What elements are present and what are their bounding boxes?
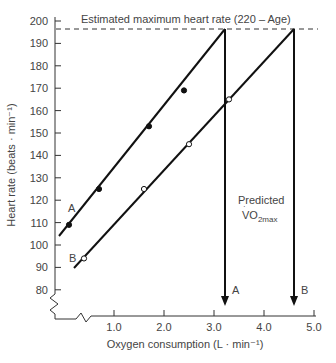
- data-point-a: [96, 186, 101, 191]
- y-tick-label: 80: [36, 284, 48, 296]
- y-axis: [50, 17, 58, 319]
- x-tick-label: 1.0: [106, 321, 121, 333]
- y-tick-label: 190: [30, 37, 48, 49]
- data-point-b: [226, 97, 231, 102]
- y-tick-label: 100: [30, 239, 48, 251]
- y-axis-label: Heart rate (beats · min⁻¹): [5, 103, 17, 226]
- x-tick-label: 5.0: [306, 321, 321, 333]
- x-tick-label: 4.0: [256, 321, 271, 333]
- y-tick-label: 170: [30, 82, 48, 94]
- x-tick-label: 2.0: [156, 321, 171, 333]
- y-tick-label: 120: [30, 194, 48, 206]
- max-heart-rate-label: Estimated maximum heart rate (220 – Age): [81, 13, 291, 25]
- data-point-b: [81, 256, 86, 261]
- heart-rate-vo2-chart: 8090100110120130140150160170180190200 1.…: [0, 0, 336, 363]
- arrowhead-b-icon: [290, 296, 298, 306]
- y-tick-label: 90: [36, 261, 48, 273]
- y-tick-label: 130: [30, 172, 48, 184]
- arrow-label-b: B: [301, 284, 308, 296]
- arrow-label-a: A: [232, 284, 240, 296]
- data-point-a: [181, 88, 186, 93]
- y-tick-label: 150: [30, 127, 48, 139]
- x-axis: [55, 313, 316, 322]
- data-point-a: [66, 222, 71, 227]
- line-a: [59, 29, 225, 236]
- arrowhead-a-icon: [221, 296, 229, 306]
- series-label-a: A: [68, 202, 76, 214]
- x-ticks: 1.02.03.04.05.0: [106, 310, 321, 333]
- y-tick-label: 160: [30, 105, 48, 117]
- data-point-a: [146, 124, 151, 129]
- series-label-b: B: [69, 252, 76, 264]
- line-b: [74, 29, 294, 268]
- vo2-dot-icon: ·: [243, 202, 246, 211]
- y-tick-label: 180: [30, 60, 48, 72]
- x-tick-label: 3.0: [206, 321, 221, 333]
- y-ticks: 8090100110120130140150160170180190200: [30, 15, 61, 296]
- chart-svg: 8090100110120130140150160170180190200 1.…: [0, 0, 336, 363]
- x-axis-label: Oxygen consumption (L · min⁻¹): [107, 338, 264, 350]
- vo2max-label: VO2max: [242, 209, 277, 224]
- y-tick-label: 140: [30, 149, 48, 161]
- y-tick-label: 110: [30, 217, 48, 229]
- y-tick-label: 200: [30, 15, 48, 27]
- data-point-b: [186, 142, 191, 147]
- data-point-b: [141, 186, 146, 191]
- data-points: [66, 88, 231, 261]
